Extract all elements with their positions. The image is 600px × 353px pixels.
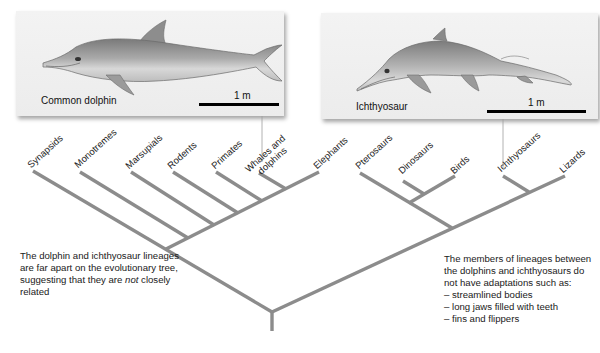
note-left-emphasis: not <box>125 274 138 285</box>
note-intermediate-lineages: The members of lineages between the dolp… <box>444 253 594 325</box>
branch-dinosaurs <box>403 181 424 194</box>
note-right-intro: The members of lineages between the dolp… <box>444 253 594 289</box>
branch-marsupials <box>131 172 214 225</box>
adaptation-item: – streamlined bodies <box>444 289 594 301</box>
branch-ichthyosaurs <box>503 176 529 192</box>
branch-monotremes <box>80 172 188 238</box>
branch-whales-dolphins <box>259 173 286 189</box>
adaptation-item: – fins and flippers <box>444 313 594 325</box>
adaptation-item: – long jaws filled with teeth <box>444 301 594 313</box>
adaptations-list: – streamlined bodies – long jaws filled … <box>444 289 594 325</box>
note-dolphin-ichthyosaur-distance: The dolphin and ichthyosaur lineages are… <box>20 250 180 298</box>
